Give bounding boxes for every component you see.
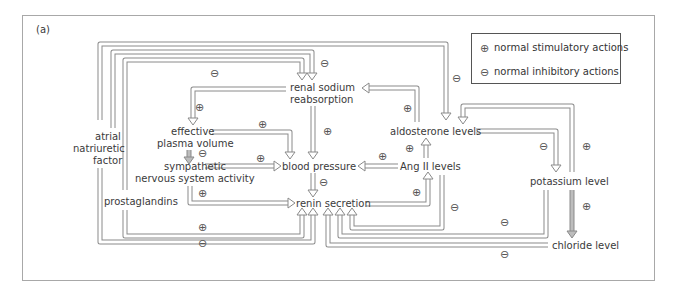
arrow-ang2-to-bp-arrowhead [358,161,365,171]
panel-label: (a) [36,24,50,35]
sign-plus-k-to-aldo: ⊕ [582,140,591,153]
sign-plus-ang2-to-bp: ⊕ [378,150,387,163]
sign-plus-ang2-to-aldo: ⊕ [405,142,414,155]
node-aldosterone: aldosterone levels [390,126,481,137]
sign-plus-renal-to-plasma: ⊕ [195,101,204,114]
arrow-k-to-aldo-arrowhead [458,117,468,124]
node-potassium: potassium level [530,176,609,187]
arrow-aldo-to-renal-arrowhead [362,83,369,93]
sign-plus-symp-to-renin: ⊕ [198,187,207,200]
sign-minus-anf-to-renin: ⊖ [198,237,207,250]
arrow-bp-to-renin-arrowhead [308,190,318,197]
arrow-renal-to-plasma-arrowhead [188,118,198,125]
legend-label-stimulatory: normal stimulatory actions [494,42,628,53]
node-chloride: chloride level [552,240,619,251]
arrow-prosta-to-renin-inner [125,210,302,236]
node-blood-pressure: blood pressure [282,161,356,172]
node-sympathetic-line1: sympathetic [164,161,226,172]
legend-label-inhibitory: normal inhibitory actions [494,66,619,77]
node-anf-line2: natriuretic [73,143,125,154]
node-prostaglandins: prostaglandins [104,196,178,207]
arrow-anf-to-aldosterone [100,44,446,120]
node-anf-line3: factor [93,155,123,166]
arrow-prosta-to-renin-arrowhead [297,208,307,215]
arrow-renin-to-ang2-arrowhead [423,172,433,179]
sign-minus-cl-to-renin: ⊖ [500,248,509,261]
arrow-anf-to-renin-arrowhead [308,208,318,215]
arrow-renal-to-plasma-inner [193,89,286,121]
legend: ⊕ normal stimulatory actions ⊖ normal in… [472,34,629,84]
sign-plus-plasma-to-bp: ⊕ [258,118,267,131]
sign-minus-top: ⊖ [320,57,329,70]
sign-minus-aldo: ⊖ [452,72,461,85]
legend-plus-icon: ⊕ [480,42,489,55]
sign-plus-symp-to-bp: ⊕ [256,152,265,165]
node-anf-line1: atrial [95,131,121,142]
sign-minus-ang2-to-renin: ⊖ [450,201,459,214]
arrow-renal-to-bp-arrowhead [308,152,318,159]
sign-minus-bp-to-renin: ⊖ [319,176,328,189]
sign-minus-k-to-renin: ⊖ [500,216,509,229]
sign-minus-plasma-to-symp: ⊖ [198,147,207,160]
sign-plus-aldo-to-renal: ⊕ [403,102,412,115]
node-renal-sodium-line2: reabsorption [290,94,353,105]
node-renin-secretion: renin secretion [296,198,371,209]
arrow-symp-to-renin-arrowhead [288,198,295,208]
node-effective-plasma-line2: plasma volume [157,138,234,149]
arrow-aldo-to-k-arrowhead [551,165,561,172]
arrow-ang2-to-renin-arrowhead [347,208,357,215]
sign-plus-renin-to-ang2: ⊕ [412,186,421,199]
arrow-renal-to-plasma [193,89,286,121]
node-effective-plasma-line1: effective [171,126,214,137]
sign-plus-k-to-cl: ⊕ [582,200,591,213]
renin-angiotensin-diagram: (a) ⊕ normal stimulatory actions ⊖ norma… [0,0,677,296]
arrow-prosta-to-renin [125,210,302,236]
arrow-plasma-to-bp-arrowhead [285,152,295,159]
main-frame [23,16,325,142]
arrow-cl-to-renin-arrowhead [323,208,333,215]
legend-minus-icon: ⊖ [480,66,489,79]
sign-minus-aldo-to-k: ⊖ [539,140,548,153]
sign-plus-renal-to-bp: ⊕ [323,125,332,138]
arrow-k-to-cl-arrowhead [567,231,577,238]
arrow-symp-to-bp-arrowhead [274,161,281,171]
arrow-anf-to-aldosterone-arrowhead [441,113,451,120]
node-ang2: Ang II levels [400,161,461,172]
node-sympathetic-line2: nervous system activity [135,173,255,184]
arrow-ang2-to-aldo-arrowhead [421,138,431,145]
arrow-k-to-renin-arrowhead [335,208,345,215]
sign-plus-prosta-to-renin: ⊕ [198,221,207,234]
figure-border [23,16,324,142]
sign-minus-anf-to-renal: ⊖ [210,67,219,80]
arrow-anf-to-renal-arrowhead [307,73,317,80]
arrow-prosta-to-renal-arrowhead [297,73,307,80]
arrow-anf-to-aldosterone-inner [100,44,446,120]
node-renal-sodium-line1: renal sodium [290,82,355,93]
